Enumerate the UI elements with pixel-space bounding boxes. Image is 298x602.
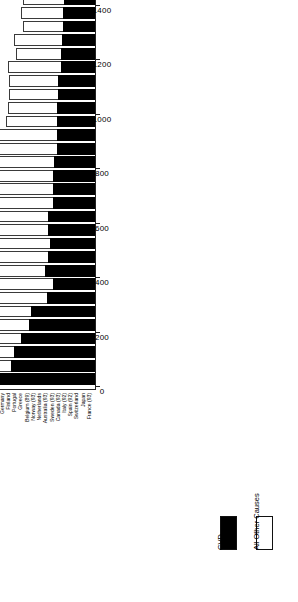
bar-segment-cvd [14, 346, 95, 358]
category-label: France (93) [87, 393, 92, 419]
bar-segment-cvd [61, 48, 95, 60]
bar-segment-cvd [21, 333, 95, 345]
bar-segment-cvd [48, 211, 95, 223]
bar-segment-all-other-causes [0, 292, 47, 304]
bar-segment-all-other-causes [0, 183, 53, 195]
bar-segment-cvd [29, 319, 95, 331]
bar-russian-federation [0, 373, 95, 385]
bar-segment-cvd [57, 116, 95, 128]
bar-segment-all-other-causes [0, 278, 53, 290]
bar-segment-all-other-causes [23, 21, 64, 33]
bar-segment-all-other-causes [0, 360, 11, 372]
bar-ireland-91 [0, 211, 95, 223]
bar-segment-all-other-causes [23, 0, 65, 5]
bar-united-states-93 [0, 170, 95, 182]
bar-segment-cvd [57, 102, 95, 114]
bar-germany [0, 89, 95, 101]
bar-segment-cvd [61, 61, 95, 73]
value-axis-tick-label: 600 [95, 224, 109, 233]
bar-segment-cvd [53, 278, 95, 290]
bar-segment-all-other-causes [14, 34, 62, 46]
bar-segment-cvd [11, 360, 95, 372]
bar-poland [0, 306, 95, 318]
bar-segment-cvd [53, 183, 95, 195]
bar-new-zealand [0, 197, 95, 209]
bar-segment-cvd [58, 75, 95, 87]
bar-netherlands [0, 7, 95, 19]
bar-segment-all-other-causes [9, 75, 59, 87]
value-axis-tick-label: 1000 [93, 115, 112, 124]
bar-segment-all-other-causes [0, 333, 21, 345]
bar-segment-cvd [45, 265, 95, 277]
bar-segment-cvd [31, 306, 95, 318]
bar-series-container [0, 0, 95, 389]
bar-hungary [0, 333, 95, 345]
bar-segment-all-other-causes [0, 156, 54, 168]
bar-segment-all-other-causes [0, 170, 53, 182]
bar-segment-cvd [64, 0, 95, 5]
bar-segment-all-other-causes [0, 143, 57, 155]
bar-segment-cvd [53, 197, 95, 209]
bar-finland [0, 75, 95, 87]
bar-segment-all-other-causes [0, 224, 48, 236]
plot-area [0, 0, 96, 390]
value-axis-tick-label: 200 [95, 333, 109, 342]
bar-segment-cvd [58, 89, 95, 101]
legend-label-all-other-causes: All Other Causes [252, 493, 261, 550]
value-axis-tick-label: 1400 [93, 6, 112, 15]
category-axis: Russian FederationRomania (92)BulgariaHu… [0, 390, 96, 456]
bar-bulgaria [0, 346, 95, 358]
bar-puerto-rico-92 [0, 102, 95, 114]
value-axis-tick-label: 400 [95, 278, 109, 287]
bar-segment-cvd [0, 373, 95, 385]
bar-segment-cvd [53, 170, 95, 182]
bar-segment-all-other-causes [8, 61, 61, 73]
bar-israel-93 [0, 183, 95, 195]
bar-segment-all-other-causes [0, 346, 14, 358]
bar-segment-cvd [63, 21, 95, 33]
bar-segment-cvd [63, 7, 95, 19]
bar-segment-all-other-causes [0, 197, 53, 209]
bar-austria [0, 116, 95, 128]
bar-segment-all-other-causes [0, 251, 48, 263]
bar-china-urban [0, 278, 95, 290]
bar-czech-republic-93 [0, 319, 95, 331]
chart-root: Country Russian FederationRomania (92)Bu… [0, 0, 298, 602]
bar-greece [0, 48, 95, 60]
rotated-chart-canvas: Country Russian FederationRomania (92)Bu… [0, 0, 146, 456]
bar-segment-cvd [54, 156, 95, 168]
value-axis: 020040060080010001200140016001800 [96, 0, 142, 390]
bar-segment-cvd [57, 143, 95, 155]
bar-segment-all-other-causes [21, 7, 63, 19]
bar-china-rural [0, 251, 95, 263]
bar-england-wales [0, 156, 95, 168]
bar-segment-cvd [48, 251, 95, 263]
value-axis-tick-label: 0 [100, 387, 105, 396]
value-axis-tick-label: 800 [95, 169, 109, 178]
bar-segment-all-other-causes [16, 48, 61, 60]
bar-romania-92 [0, 360, 95, 372]
bar-segment-all-other-causes [6, 116, 57, 128]
bar-segment-all-other-causes [0, 211, 48, 223]
bar-segment-cvd [62, 34, 95, 46]
bar-australia-93 [0, 0, 95, 5]
bar-belgium-89 [0, 34, 95, 46]
value-axis-tick-label: 1200 [93, 60, 112, 69]
bar-scotland [0, 265, 95, 277]
bar-northern-ireland [0, 224, 95, 236]
bar-segment-all-other-causes [0, 319, 29, 331]
bar-segment-all-other-causes [8, 102, 57, 114]
bar-segment-cvd [48, 224, 95, 236]
bar-denmark-93 [0, 143, 95, 155]
bar-portugal [0, 61, 95, 73]
chart-legend: CVD All Other Causes [176, 488, 286, 584]
bar-norway-93 [0, 21, 95, 33]
bar-segment-all-other-causes [0, 129, 57, 141]
bar-columbia-91 [0, 292, 95, 304]
bar-segment-all-other-causes [0, 238, 50, 250]
bar-segment-all-other-causes [9, 89, 58, 101]
bar-segment-cvd [57, 129, 95, 141]
bar-segment-all-other-causes [0, 265, 45, 277]
legend-label-cvd: CVD [216, 534, 225, 550]
bar-mexico-93 [0, 129, 95, 141]
